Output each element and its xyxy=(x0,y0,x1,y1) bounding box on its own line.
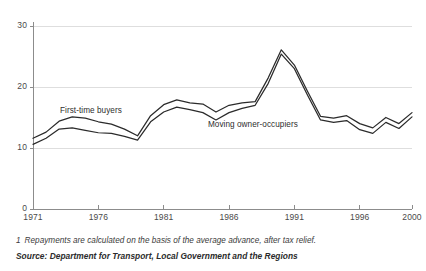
chart-axes xyxy=(33,22,412,209)
series-line-2 xyxy=(33,54,412,144)
chart-footnote: 1Repayments are calculated on the basis … xyxy=(16,236,316,245)
y-tick-label: 20 xyxy=(5,81,27,91)
chart-source: Source: Department for Transport, Local … xyxy=(16,251,298,261)
mortgage-repayments-line-chart: 0102030 1971197619811986199119962000 Fir… xyxy=(0,0,426,271)
y-tick-label: 10 xyxy=(5,142,27,152)
x-tick-label: 2000 xyxy=(392,212,426,222)
footnote-marker: 1 xyxy=(16,236,21,245)
footnote-text: Repayments are calculated on the basis o… xyxy=(25,236,317,245)
x-tick-label: 1991 xyxy=(274,212,314,222)
chart-plot-area xyxy=(0,0,426,271)
series-annotation-label: First-time buyers xyxy=(60,106,122,115)
x-tick-label: 1996 xyxy=(340,212,380,222)
gridlines xyxy=(33,26,412,148)
x-tick-label: 1986 xyxy=(209,212,249,222)
x-tick-label: 1981 xyxy=(144,212,184,222)
y-tick-label: 30 xyxy=(5,20,27,30)
data-series-lines xyxy=(33,50,412,145)
series-annotation-label: Moving owner-occupiers xyxy=(208,120,298,129)
x-tick-label: 1971 xyxy=(13,212,53,222)
x-tick-label: 1976 xyxy=(78,212,118,222)
